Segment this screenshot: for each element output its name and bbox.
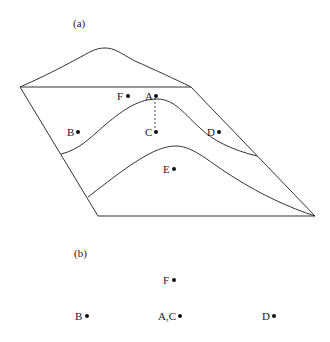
point-ac-b: A,C [158, 310, 182, 322]
point-ac-b-dot [178, 314, 182, 318]
point-f-b-label: F [163, 274, 169, 286]
point-f-a: F [117, 90, 130, 102]
point-b-b: B [75, 310, 89, 322]
point-f-dot [126, 94, 130, 98]
point-f-label: F [117, 90, 123, 102]
point-e: E [163, 163, 176, 175]
point-b-b-dot [85, 314, 89, 318]
back-hump-curve [20, 48, 191, 87]
left-edge [20, 87, 98, 216]
point-f-b: F [163, 274, 176, 286]
panel-b-label: (b) [74, 247, 87, 260]
point-d-b-label: D [262, 310, 270, 322]
point-c-dot [154, 130, 158, 134]
point-f-b-dot [172, 278, 176, 282]
point-b-b-label: B [75, 310, 82, 322]
right-edge [191, 87, 315, 216]
point-c-label: C [145, 126, 152, 138]
diagram-canvas: (a) F A B C D E (b) F [0, 0, 330, 342]
point-a-label: A [145, 90, 153, 102]
point-d-label: D [207, 126, 215, 138]
point-a-dot [154, 94, 158, 98]
point-a: A [145, 90, 158, 102]
point-e-label: E [163, 163, 170, 175]
point-d-b: D [262, 310, 276, 322]
middle-ridge-curve [61, 99, 257, 156]
point-d-a: D [207, 126, 221, 138]
point-c: C [145, 126, 158, 138]
point-b-label: B [67, 126, 74, 138]
point-d-b-dot [272, 314, 276, 318]
point-ac-b-label: A,C [158, 310, 176, 322]
point-b-dot [76, 130, 80, 134]
point-e-dot [172, 167, 176, 171]
point-d-dot [217, 130, 221, 134]
point-b-a: B [67, 126, 80, 138]
panel-a-label: (a) [73, 17, 86, 30]
